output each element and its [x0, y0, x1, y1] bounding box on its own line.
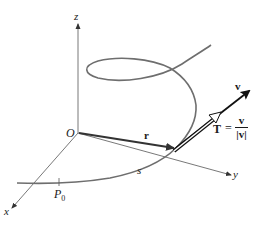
y-axis	[78, 133, 231, 175]
tangent-denominator: |v|	[235, 128, 248, 140]
tangent-equals: =	[225, 122, 232, 134]
x-axis-label: x	[4, 206, 9, 217]
diagram-canvas	[0, 0, 265, 229]
position-vector-r	[79, 133, 174, 148]
figure: z x y O r v s P0 T = v |v|	[0, 0, 265, 229]
x-axis	[12, 133, 78, 208]
tangent-fraction: v |v|	[235, 115, 248, 140]
arc-length-label: s	[137, 165, 141, 176]
tangent-numerator: v	[235, 115, 248, 128]
velocity-vector-label: v	[235, 81, 241, 92]
base-point-subscript: 0	[61, 194, 65, 203]
space-curve	[17, 45, 211, 183]
base-point-label: P0	[54, 188, 65, 203]
position-vector-label: r	[144, 130, 149, 141]
tangent-label-T: T	[213, 123, 221, 135]
y-axis-label: y	[233, 169, 238, 180]
z-axis-label: z	[74, 11, 78, 22]
origin-label: O	[66, 127, 75, 139]
